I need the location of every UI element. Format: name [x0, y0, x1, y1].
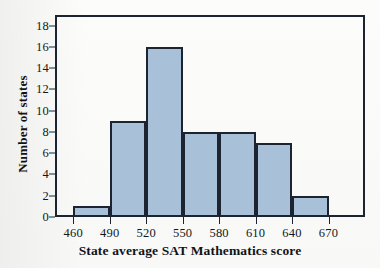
histogram-bar: [110, 121, 146, 217]
y-axis-tick-label: 18: [36, 18, 49, 33]
x-axis-tick-mark: [292, 217, 293, 224]
histogram-bar: [219, 132, 255, 217]
x-axis-tick-label: 520: [136, 226, 155, 241]
x-axis-tick-mark: [73, 217, 74, 224]
x-axis-tick-mark: [256, 217, 257, 224]
histogram-bar: [292, 196, 328, 217]
x-axis-tick-mark: [329, 217, 330, 224]
x-axis-tick-mark: [219, 217, 220, 224]
x-axis-tick-mark: [183, 217, 184, 224]
x-axis-tick-label: 580: [209, 226, 228, 241]
x-axis-tick-label: 670: [319, 226, 338, 241]
histogram-figure: Number of states 024681012141618 4604905…: [0, 0, 380, 268]
histogram-bars: [55, 15, 365, 217]
x-axis-tick-label: 640: [282, 226, 301, 241]
histogram-bar: [256, 143, 292, 217]
x-axis-tick-label: 610: [246, 226, 265, 241]
x-axis-tick-mark: [110, 217, 111, 224]
y-axis-tick-label: 16: [36, 39, 49, 54]
x-axis-tick-label: 460: [64, 226, 83, 241]
histogram-bar: [183, 132, 219, 217]
histogram-bar: [146, 47, 182, 217]
x-axis-tick-mark: [146, 217, 147, 224]
y-axis-tick-labels: 024681012141618: [22, 15, 49, 217]
y-axis-tick-label: 12: [36, 82, 49, 97]
histogram-bar: [73, 206, 109, 217]
y-axis-tick-label: 10: [36, 103, 49, 118]
x-axis-tick-label: 490: [100, 226, 119, 241]
x-axis-tick-label: 550: [173, 226, 192, 241]
x-axis-title: State average SAT Mathematics score: [0, 243, 380, 259]
y-axis-tick-label: 14: [36, 61, 49, 76]
